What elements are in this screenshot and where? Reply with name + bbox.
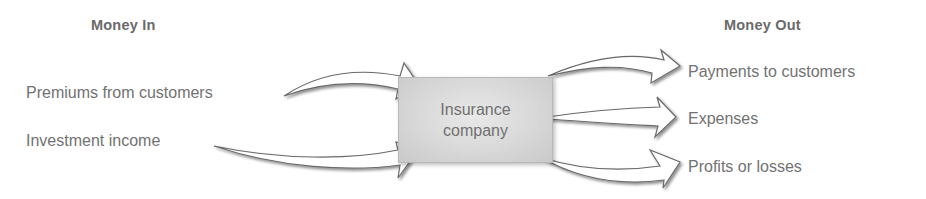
money-out-item-payments: Payments to customers: [688, 63, 855, 81]
money-out-item-expenses: Expenses: [688, 110, 758, 128]
center-label-line2: company: [440, 120, 510, 141]
insurance-money-flow-diagram: Money In Premiums from customers Investm…: [0, 0, 926, 199]
money-out-heading: Money Out: [724, 17, 801, 33]
arrow-investment-icon: [214, 142, 418, 178]
money-in-item-investment: Investment income: [26, 132, 160, 150]
money-out-item-profits: Profits or losses: [688, 158, 802, 176]
money-in-item-premiums: Premiums from customers: [26, 84, 213, 102]
money-in-heading: Money In: [91, 17, 155, 33]
insurance-company-box: Insurance company: [398, 77, 553, 163]
arrow-expenses-icon: [540, 97, 676, 137]
arrow-payments-icon: [548, 50, 680, 83]
arrow-profits-icon: [540, 150, 680, 188]
center-label-line1: Insurance: [440, 99, 510, 120]
